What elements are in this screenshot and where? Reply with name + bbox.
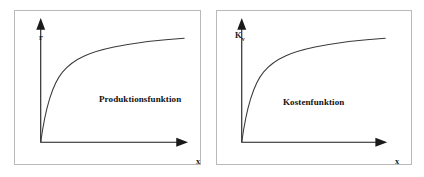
x-axis-arrow-cost (375, 138, 387, 147)
x-axis-label-text-production: x (196, 156, 200, 166)
x-axis-label-cost: x (395, 157, 399, 166)
panel-cost: Kv x Kostenfunktion (216, 10, 412, 165)
y-axis-label-subscript-cost: v (242, 36, 245, 42)
cost-function-caption: Kostenfunktion (283, 97, 344, 107)
y-axis-arrow-production (36, 18, 45, 30)
production-function-caption: Produktionsfunktion (99, 94, 181, 104)
y-axis-label-production: r (39, 33, 43, 42)
cost-chart-svg (217, 11, 411, 164)
x-axis-label-text-cost: x (395, 156, 399, 166)
y-axis-arrow-cost (237, 18, 246, 30)
x-axis-label-production: x (196, 157, 200, 166)
x-axis-arrow-production (176, 138, 188, 147)
panel-production: r x Produktionsfunktion (14, 10, 201, 165)
y-axis-label-text-production: r (39, 32, 43, 42)
figure-root: r x Produktionsfunktion Kv x Kostenfunkt… (0, 0, 424, 177)
cost-function-curve (242, 38, 386, 142)
y-axis-label-cost: Kv (235, 31, 245, 42)
production-function-curve (41, 38, 184, 142)
y-axis-label-text-cost: K (235, 30, 242, 40)
